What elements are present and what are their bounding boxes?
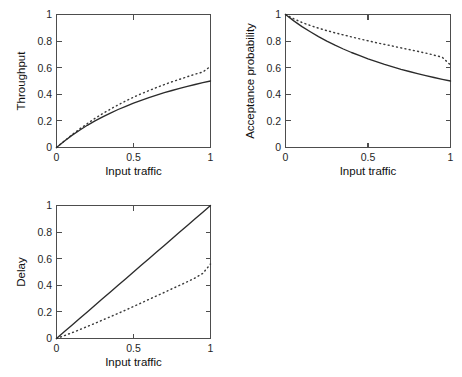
y-ticklabel: 0.6: [266, 62, 281, 74]
y-ticklabel: 0.2: [266, 115, 281, 127]
x-axis-label: Input traffic: [340, 165, 397, 177]
y-ticklabel: 0.8: [37, 226, 52, 238]
x-ticklabel: 0.5: [126, 151, 141, 163]
x-ticklabel: 1: [208, 151, 214, 163]
y-ticklabel: 1: [275, 8, 281, 20]
y-axis-label: Throughput: [15, 51, 27, 111]
y-ticklabel: 0.8: [266, 35, 281, 47]
y-ticklabel: 1: [46, 199, 52, 211]
y-ticklabel: 1: [46, 8, 52, 20]
x-axis-label: Input traffic: [105, 356, 162, 368]
y-axis-label: Delay: [15, 257, 27, 287]
panel-throughput: 0 0.2 0.4 0.6 0.8 1 0 0.5 1 Input traffi…: [0, 0, 230, 190]
y-axis-label: Acceptance probability: [244, 23, 256, 139]
throughput-y-ticklabels: 0 0.2 0.4 0.6 0.8 1: [37, 8, 52, 153]
acceptance-dotted-curve: [286, 15, 451, 66]
throughput-axes: [57, 15, 211, 148]
delay-plot: 0 0.2 0.4 0.6 0.8 1 0 0.5 1 Input traffi…: [0, 190, 230, 377]
x-ticklabel: 0: [54, 151, 60, 163]
throughput-solid-curve: [57, 81, 211, 148]
x-ticklabel: 1: [208, 342, 214, 354]
y-ticklabel: 0: [46, 332, 52, 344]
acceptance-solid-curve: [286, 15, 451, 82]
throughput-series: [57, 66, 211, 147]
axes-frame: [286, 15, 451, 148]
delay-dotted-curve: [57, 264, 211, 339]
y-tick-marks: [57, 15, 62, 148]
y-ticklabel: 0.4: [266, 88, 281, 100]
x-tick-marks: [286, 15, 451, 148]
y-ticklabel: 0.6: [37, 62, 52, 74]
y-ticklabel: 0.2: [37, 115, 52, 127]
x-ticklabel: 1: [448, 151, 454, 163]
delay-solid-curve: [57, 206, 211, 339]
x-tick-marks: [57, 15, 211, 148]
y-ticklabel: 0: [275, 141, 281, 153]
y-ticklabel: 0.6: [37, 253, 52, 265]
throughput-x-ticklabels: 0 0.5 1: [54, 151, 214, 163]
panel-delay: 0 0.2 0.4 0.6 0.8 1 0 0.5 1 Input traffi…: [0, 190, 230, 377]
acceptance-series: [286, 15, 451, 82]
acceptance-axes: [286, 15, 451, 148]
axes-frame: [57, 15, 211, 148]
x-ticklabel: 0: [283, 151, 289, 163]
x-axis-label: Input traffic: [105, 165, 162, 177]
panel-acceptance-probability: 0 0.2 0.4 0.6 0.8 1 0 0.5 1 Input traffi…: [230, 0, 462, 190]
throughput-plot: 0 0.2 0.4 0.6 0.8 1 0 0.5 1 Input traffi…: [0, 0, 230, 190]
y-ticklabel: 0.2: [37, 306, 52, 318]
y-tick-marks: [286, 15, 451, 148]
acceptance-x-ticklabels: 0 0.5 1: [283, 151, 454, 163]
throughput-dotted-curve: [57, 66, 211, 147]
y-ticklabel: 0.4: [37, 88, 52, 100]
y-ticklabel: 0.4: [37, 279, 52, 291]
figure-canvas: 0 0.2 0.4 0.6 0.8 1 0 0.5 1 Input traffi…: [0, 0, 462, 377]
delay-x-ticklabels: 0 0.5 1: [54, 342, 214, 354]
x-ticklabel: 0.5: [126, 342, 141, 354]
y-ticklabel: 0.8: [37, 35, 52, 47]
y-ticklabel: 0: [46, 141, 52, 153]
acceptance-probability-plot: 0 0.2 0.4 0.6 0.8 1 0 0.5 1 Input traffi…: [230, 0, 462, 190]
x-ticklabel: 0.5: [361, 151, 376, 163]
delay-series: [57, 206, 211, 339]
x-ticklabel: 0: [54, 342, 60, 354]
delay-y-ticklabels: 0 0.2 0.4 0.6 0.8 1: [37, 199, 52, 344]
acceptance-y-ticklabels: 0 0.2 0.4 0.6 0.8 1: [266, 8, 281, 153]
